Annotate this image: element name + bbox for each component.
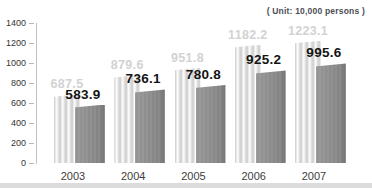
y-axis-line — [36, 23, 37, 164]
bar-front-2005 — [195, 85, 226, 163]
y-axis-tick — [29, 143, 34, 144]
bar-front-2006 — [255, 70, 286, 163]
bar-front-value-2003: 583.9 — [48, 87, 118, 102]
bar-front-value-2005: 780.8 — [169, 67, 239, 82]
y-axis-tick-label: 1400 — [0, 18, 26, 28]
y-axis-tick-label: 1000 — [0, 58, 26, 68]
bar-chart: ( Unit: 10,000 persons ) 020040060080010… — [0, 0, 372, 188]
bottom-strip — [0, 183, 372, 188]
x-axis-label-2006: 2006 — [226, 170, 282, 182]
bar-back-value-2005: 951.8 — [153, 51, 223, 65]
x-axis-label-2004: 2004 — [105, 170, 161, 182]
y-axis-tick — [29, 123, 34, 124]
bar-front-value-2007: 995.6 — [289, 45, 359, 60]
y-axis-tick-label: 400 — [0, 118, 26, 128]
x-axis-label-2007: 2007 — [286, 170, 342, 182]
y-axis-tick — [29, 103, 34, 104]
y-axis-tick-label: 1200 — [0, 38, 26, 48]
y-axis-tick — [29, 163, 34, 164]
bar-front-2004 — [134, 89, 165, 163]
bar-front-2003 — [74, 105, 105, 163]
x-axis-label-2003: 2003 — [45, 170, 101, 182]
y-axis-tick-label: 0 — [0, 158, 26, 168]
unit-label: ( Unit: 10,000 persons ) — [267, 6, 365, 16]
y-axis-tick — [29, 23, 34, 24]
bar-front-2007 — [315, 63, 346, 163]
y-axis-tick-label: 600 — [0, 98, 26, 108]
bar-back-value-2007: 1223.1 — [273, 24, 343, 38]
y-axis-tick-label: 800 — [0, 78, 26, 88]
x-axis-label-2005: 2005 — [166, 170, 222, 182]
y-axis-tick — [29, 63, 34, 64]
y-axis-tick-label: 200 — [0, 138, 26, 148]
y-axis-tick — [29, 43, 34, 44]
